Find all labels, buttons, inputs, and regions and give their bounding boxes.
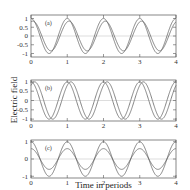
- x-tick-label: 4: [174, 58, 178, 66]
- y-tick-label: 0: [25, 32, 29, 40]
- x-tick-label: 0: [29, 122, 33, 130]
- y-tick-label: -0.5: [17, 41, 29, 49]
- x-tick-label: 4: [174, 179, 178, 187]
- x-tick-label: 2: [102, 58, 106, 66]
- y-tick-label: 1: [25, 138, 29, 146]
- panel-a: 10.50-0.5-101234(a): [17, 15, 178, 66]
- chart: 10.50-0.5-101234(a)10.50-0.5-101234(b)10…: [0, 0, 190, 190]
- x-tick-label: 2: [102, 122, 106, 130]
- y-tick-label: 0: [25, 155, 29, 163]
- y-tick-label: -1: [22, 115, 28, 123]
- panel-label: (c): [45, 145, 52, 152]
- x-tick-label: 0: [29, 179, 33, 187]
- x-axis-label: Time in periods: [75, 180, 132, 190]
- x-tick-label: 3: [138, 179, 142, 187]
- x-tick-label: 3: [138, 122, 142, 130]
- x-tick-label: 1: [66, 179, 70, 187]
- y-tick-label: 0: [25, 97, 29, 105]
- y-tick-label: -1: [22, 50, 28, 58]
- panel-b: 10.50-0.5-101234(b): [17, 78, 178, 130]
- x-tick-label: 1: [66, 122, 70, 130]
- x-tick-label: 0: [29, 58, 33, 66]
- panel-label: (b): [45, 85, 52, 92]
- y-tick-label: -1: [22, 173, 28, 181]
- y-tick-label: 0.5: [19, 87, 28, 95]
- x-tick-label: 1: [66, 58, 70, 66]
- y-tick-label: 0.5: [19, 24, 28, 32]
- y-tick-label: 1: [25, 78, 29, 86]
- y-axis-label: Electric field: [9, 76, 19, 123]
- y-tick-label: 1: [25, 15, 29, 23]
- panel-label: (a): [45, 20, 52, 27]
- x-tick-label: 3: [138, 58, 142, 66]
- x-tick-label: 4: [174, 122, 178, 130]
